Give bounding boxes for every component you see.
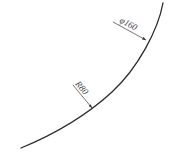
radius-dimension: R80 — [73, 78, 92, 108]
arc-drawing: φ160 R80 — [0, 0, 175, 162]
diameter-label: φ160 — [118, 15, 139, 33]
radius-label: R80 — [73, 78, 91, 97]
arc-curve — [21, 3, 163, 148]
diameter-dimension: φ160 — [113, 15, 146, 40]
